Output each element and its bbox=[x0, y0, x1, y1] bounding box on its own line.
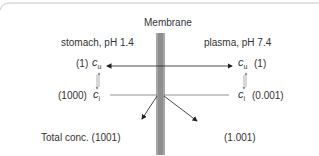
right-ci-symbol: ci bbox=[238, 88, 245, 102]
left-compartment-label: stomach, pH 1.4 bbox=[61, 37, 134, 49]
arrow-total-left bbox=[142, 96, 157, 119]
left-ci-symbol: ci bbox=[93, 88, 100, 102]
left-total-label: Total conc. (1001) bbox=[41, 132, 121, 144]
membrane-bar bbox=[156, 33, 165, 155]
membrane-label: Membrane bbox=[144, 17, 192, 29]
right-total-label: (1.001) bbox=[224, 132, 256, 144]
arrow-total-right bbox=[164, 96, 197, 121]
left-ci-value: (1000) bbox=[58, 90, 87, 102]
top-border bbox=[0, 3, 319, 10]
right-compartment-label: plasma, pH 7.4 bbox=[204, 37, 271, 49]
right-ci-value: (0.001) bbox=[252, 90, 284, 102]
right-cu-value: (1) bbox=[254, 58, 266, 70]
left-cu-symbol: cu bbox=[92, 56, 101, 70]
right-cu-symbol: cu bbox=[238, 56, 247, 70]
left-cu-value: (1) bbox=[76, 58, 88, 70]
diagram-frame: Membrane stomach, pH 1.4 plasma, pH 7.4 … bbox=[0, 0, 319, 156]
